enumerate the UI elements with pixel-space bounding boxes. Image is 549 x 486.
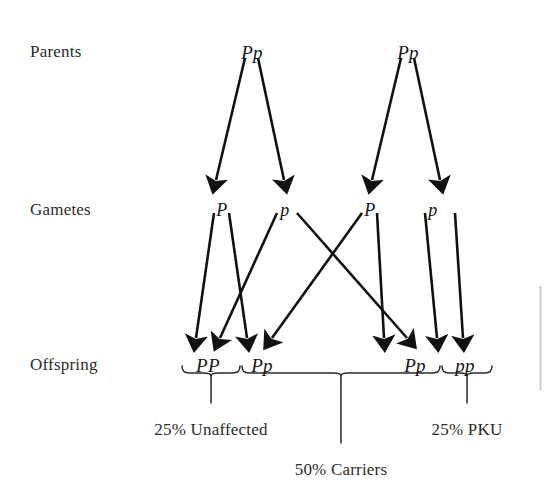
gamete-4: p <box>428 200 437 221</box>
inheritance-arrow-gamete-offspring-4 <box>297 213 407 338</box>
row-label-offspring: Offspring <box>30 355 98 375</box>
inheritance-arrow-gamete-offspring-1 <box>196 213 214 338</box>
offspring-3: Pp <box>404 355 426 377</box>
outcome-unaffected: 25% Unaffected <box>154 420 267 440</box>
inheritance-arrow-gamete-offspring-2 <box>229 213 247 338</box>
inheritance-arrow-gamete-offspring-8 <box>455 213 463 338</box>
arrow-group-parents-to-gametes <box>216 58 440 180</box>
inheritance-arrow-parent-gamete-4 <box>414 58 440 180</box>
scan-edge-artifact <box>539 286 542 390</box>
offspring-1: PP <box>196 355 220 377</box>
row-label-gametes: Gametes <box>30 200 91 220</box>
inheritance-arrow-gamete-offspring-7 <box>425 213 437 338</box>
parent-1: Pp <box>241 42 263 64</box>
inheritance-arrow-parent-gamete-1 <box>216 58 245 180</box>
inheritance-arrow-parent-gamete-3 <box>372 58 401 180</box>
inheritance-arrow-gamete-offspring-5 <box>272 213 362 338</box>
inheritance-arrow-parent-gamete-2 <box>258 58 284 180</box>
parent-2: Pp <box>397 42 419 64</box>
row-label-parents: Parents <box>30 42 81 62</box>
offspring-2: Pp <box>251 355 273 377</box>
inheritance-arrow-gamete-offspring-6 <box>377 213 384 338</box>
diagram-canvas <box>0 0 549 486</box>
inheritance-arrow-gamete-offspring-3 <box>220 213 277 338</box>
outcome-carriers: 50% Carriers <box>295 460 388 480</box>
outcome-pku: 25% PKU <box>432 420 503 440</box>
gamete-3: P <box>364 200 375 221</box>
offspring-4: pp <box>455 355 475 377</box>
arrow-group-gametes-to-offspring <box>196 213 463 338</box>
gamete-1: P <box>216 200 227 221</box>
pku-inheritance-diagram: ParentsGametesOffspring PpPp PpPp PPPpPp… <box>0 0 549 486</box>
gamete-2: p <box>280 200 289 221</box>
